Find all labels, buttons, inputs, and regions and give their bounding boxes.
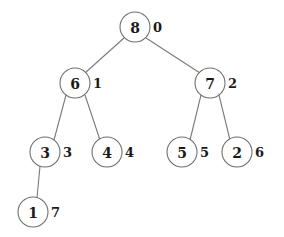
tree-node-6[interactable]: 61 — [60, 68, 102, 98]
node-index-label: 0 — [153, 20, 162, 35]
tree-node-5[interactable]: 55 — [167, 137, 209, 167]
node-value-label: 2 — [232, 145, 242, 161]
tree-node-8[interactable]: 80 — [120, 12, 162, 42]
tree-edge-n0-n2 — [146, 38, 200, 73]
node-value-label: 1 — [28, 205, 38, 221]
node-value-label: 5 — [177, 145, 187, 161]
node-value-label: 3 — [40, 145, 50, 161]
tree-node-4[interactable]: 44 — [92, 137, 134, 167]
tree-edge-n2-n5 — [190, 95, 201, 140]
node-index-label: 1 — [93, 76, 102, 91]
binary-tree-figure: 8061723344552617 — [0, 0, 284, 237]
node-index-label: 5 — [200, 145, 209, 160]
tree-node-2[interactable]: 26 — [222, 137, 264, 167]
node-index-label: 4 — [125, 145, 134, 160]
node-value-label: 7 — [205, 76, 215, 92]
tree-edge-n0-n1 — [85, 38, 124, 73]
node-index-label: 6 — [255, 145, 264, 160]
tree-edge-n1-n4 — [85, 95, 100, 140]
tree-edge-n3-n7 — [37, 166, 40, 198]
node-value-label: 4 — [102, 145, 112, 161]
node-value-label: 6 — [70, 76, 80, 92]
tree-nodes: 8061723344552617 — [18, 12, 264, 227]
tree-edges — [37, 38, 230, 198]
node-index-label: 7 — [51, 205, 60, 220]
tree-node-1[interactable]: 17 — [18, 197, 60, 227]
node-index-label: 3 — [63, 145, 72, 160]
tree-edge-n2-n6 — [219, 95, 230, 140]
tree-edge-n1-n3 — [54, 95, 66, 140]
node-index-label: 2 — [228, 76, 237, 91]
tree-canvas: 8061723344552617 — [0, 0, 284, 237]
tree-node-3[interactable]: 33 — [30, 137, 72, 167]
node-value-label: 8 — [130, 20, 140, 36]
tree-node-7[interactable]: 72 — [195, 68, 237, 98]
